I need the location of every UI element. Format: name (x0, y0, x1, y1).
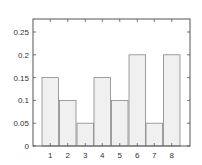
bars-group (42, 55, 180, 146)
bar-chart: 00.050.10.150.20.25 12345678 (0, 0, 202, 165)
bar-1 (42, 78, 59, 146)
y-tick-label: 0.15 (13, 74, 29, 83)
x-tick-label: 1 (48, 151, 53, 160)
x-tick-label: 7 (152, 151, 157, 160)
bar-6 (129, 55, 146, 146)
bar-4 (94, 78, 111, 146)
bar-5 (112, 100, 129, 146)
x-tick-label: 2 (66, 151, 71, 160)
y-tick-label: 0.2 (18, 51, 30, 60)
x-tick-label: 5 (118, 151, 123, 160)
y-tick-label: 0 (25, 142, 30, 151)
x-tick-label: 8 (170, 151, 175, 160)
x-tick-label: 4 (100, 151, 105, 160)
y-tick-label: 0.05 (13, 119, 29, 128)
y-tick-label: 0.25 (13, 28, 29, 37)
x-tick-label: 6 (135, 151, 140, 160)
y-tick-label: 0.1 (18, 96, 30, 105)
bar-8 (164, 55, 181, 146)
bar-2 (60, 100, 77, 146)
bar-3 (77, 123, 94, 146)
x-tick-label: 3 (83, 151, 88, 160)
bar-7 (146, 123, 163, 146)
